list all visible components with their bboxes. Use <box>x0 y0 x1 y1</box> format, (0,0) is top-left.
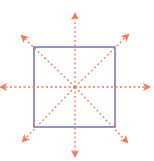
arrow-up-left <box>22 36 75 87</box>
arrow-down-right <box>75 87 127 142</box>
diagram-canvas <box>0 0 154 161</box>
arrow-down-left <box>23 87 75 141</box>
arrow-up-right <box>75 35 128 87</box>
